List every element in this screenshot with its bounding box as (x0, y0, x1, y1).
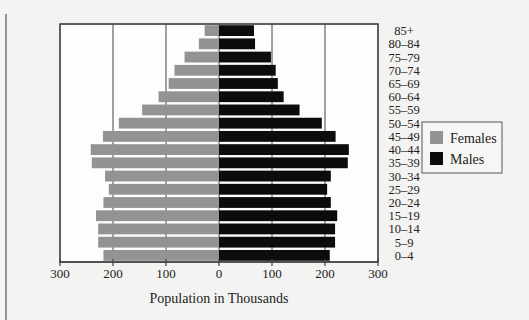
bar-males-60–64 (219, 91, 284, 102)
x-axis-title: Population in Thousands (150, 291, 289, 306)
bar-females-75–79 (185, 52, 219, 63)
age-group-label: 80–84 (388, 37, 420, 51)
x-tick-label: 200 (103, 266, 123, 281)
age-group-label: 85+ (394, 24, 414, 38)
bar-males-5–9 (219, 237, 335, 248)
age-group-label: 25–29 (388, 183, 419, 197)
x-tick-label: 300 (50, 266, 70, 281)
bar-males-30–34 (219, 171, 331, 182)
bar-females-40–44 (91, 144, 219, 155)
age-group-label: 50–54 (388, 117, 420, 131)
bar-males-50–54 (219, 118, 322, 129)
age-group-label: 0–4 (395, 249, 415, 263)
bar-females-35–39 (92, 157, 219, 168)
age-group-label: 45–49 (388, 130, 419, 144)
bar-females-50–54 (119, 118, 219, 129)
x-tick-label: 300 (368, 266, 388, 281)
bar-females-80–84 (199, 38, 219, 49)
legend-swatch-females (430, 131, 443, 144)
age-group-label: 55–59 (388, 103, 419, 117)
legend-label-females: Females (450, 131, 497, 146)
bar-females-70–74 (174, 65, 219, 76)
age-group-label: 35–39 (388, 156, 419, 170)
age-group-label: 60–64 (388, 90, 420, 104)
x-tick-label: 200 (315, 266, 335, 281)
x-tick-label: 0 (216, 266, 223, 281)
bar-females-60–64 (159, 91, 219, 102)
bar-females-55–59 (142, 105, 219, 116)
age-group-label: 5–9 (395, 236, 414, 250)
bar-females-10–14 (98, 224, 219, 235)
bar-males-10–14 (219, 224, 335, 235)
x-axis: 3002001000100200300 (50, 259, 388, 281)
bar-males-55–59 (219, 105, 300, 116)
age-group-label: 20–24 (388, 196, 420, 210)
bar-females-65–69 (169, 78, 219, 89)
legend-label-males: Males (450, 152, 484, 167)
age-group-label: 30–34 (388, 170, 420, 184)
bar-females-15–19 (96, 210, 219, 221)
bar-females-5–9 (98, 237, 219, 248)
bar-females-85+ (205, 25, 219, 36)
age-group-label: 15–19 (388, 209, 419, 223)
bar-males-45–49 (219, 131, 336, 142)
age-group-label: 65–69 (388, 77, 419, 91)
bar-males-65–69 (219, 78, 278, 89)
bar-males-15–19 (219, 210, 337, 221)
legend: Females Males (422, 122, 502, 173)
bar-females-25–29 (109, 184, 219, 195)
bar-males-0–4 (219, 250, 330, 261)
age-group-label: 75–79 (388, 51, 419, 65)
age-group-label: 40–44 (388, 143, 420, 157)
bar-males-35–39 (219, 157, 348, 168)
bar-males-70–74 (219, 65, 276, 76)
bar-males-20–24 (219, 197, 331, 208)
age-group-labels: 85+80–8475–7970–7465–6960–6455–5950–5445… (388, 24, 420, 263)
bar-females-0–4 (103, 250, 219, 261)
age-group-label: 70–74 (388, 64, 420, 78)
bar-males-85+ (219, 25, 254, 36)
x-tick-label: 100 (156, 266, 176, 281)
age-group-label: 10–14 (388, 222, 420, 236)
bar-females-20–24 (103, 197, 219, 208)
bar-males-25–29 (219, 184, 327, 195)
bar-males-75–79 (219, 52, 271, 63)
bar-males-80–84 (219, 38, 255, 49)
bar-males-40–44 (219, 144, 349, 155)
population-pyramid-chart: 3002001000100200300 85+80–8475–7970–7465… (0, 0, 529, 320)
x-tick-label: 100 (262, 266, 282, 281)
bar-females-45–49 (103, 131, 219, 142)
legend-swatch-males (430, 152, 443, 165)
bar-females-30–34 (105, 171, 219, 182)
